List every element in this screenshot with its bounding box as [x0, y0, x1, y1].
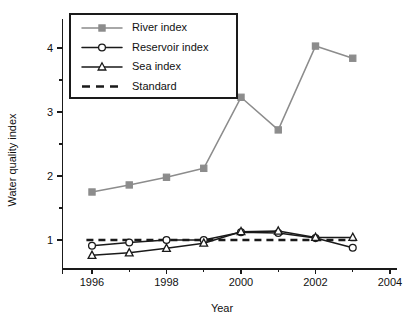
marker-reservoir-index — [349, 244, 356, 251]
marker-river-index — [89, 189, 95, 195]
marker-river-index — [201, 165, 207, 171]
x-tick-label: 1996 — [80, 276, 104, 288]
marker-river-index — [238, 94, 244, 100]
y-tick-label: 2 — [47, 170, 53, 182]
legend-label: Sea index — [132, 60, 181, 72]
marker-river-index — [275, 127, 281, 133]
legend-label: Standard — [132, 80, 177, 92]
x-tick-label: 2002 — [303, 276, 327, 288]
y-tick-label: 1 — [47, 234, 53, 246]
marker-river-index — [350, 55, 356, 61]
x-tick-label: 1998 — [154, 276, 178, 288]
marker-river-index — [126, 182, 132, 188]
y-axis-title: Water quality index — [6, 113, 18, 207]
legend-swatch-marker — [99, 25, 105, 31]
marker-reservoir-index — [89, 242, 96, 249]
marker-river-index — [163, 174, 169, 180]
marker-reservoir-index — [126, 239, 133, 246]
chart-legend[interactable]: River indexReservoir indexSea indexStand… — [70, 14, 237, 98]
legend-label: River index — [132, 21, 188, 33]
y-tick-label: 4 — [47, 42, 53, 54]
marker-reservoir-index — [163, 237, 170, 244]
marker-river-index — [312, 43, 318, 49]
line-chart: 123419961998200020022004 Water quality i… — [0, 0, 420, 324]
legend-swatch-marker — [99, 44, 106, 51]
chart-figure: 123419961998200020022004 Water quality i… — [0, 0, 420, 324]
x-tick-label: 2004 — [378, 276, 402, 288]
y-tick-label: 3 — [47, 106, 53, 118]
legend-label: Reservoir index — [132, 41, 209, 53]
x-tick-label: 2000 — [229, 276, 253, 288]
x-axis-title: Year — [211, 302, 234, 314]
